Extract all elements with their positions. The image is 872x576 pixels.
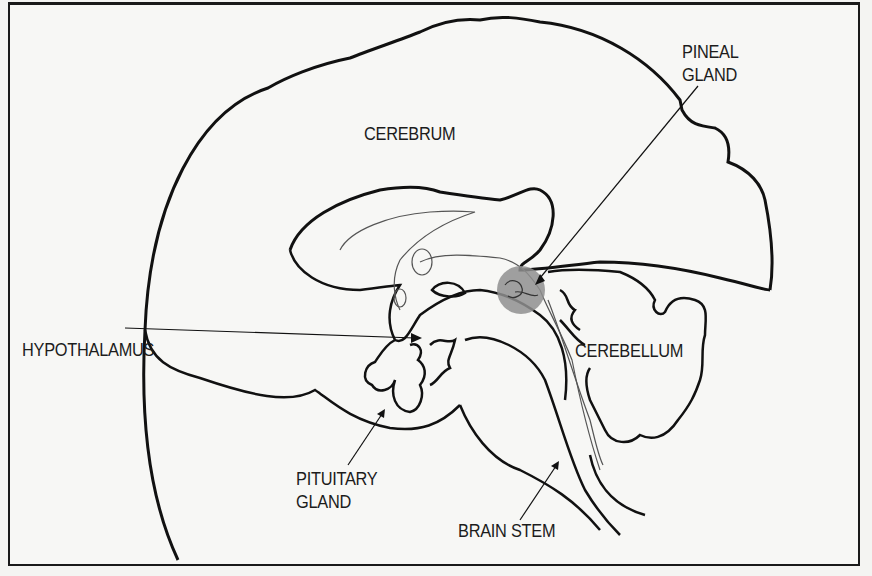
cerebrum-outline [144, 17, 772, 560]
cerebellum-folds [560, 290, 585, 345]
brain-stem-text: BRAIN STEM [458, 520, 555, 541]
label-pituitary-gland: PITUITARY GLAND [296, 467, 378, 513]
hypothalamus-text: HYPOTHALAMUS [22, 339, 154, 360]
pineal-text-line2: GLAND [682, 63, 739, 86]
hypothalamus-leader-line [125, 328, 415, 338]
label-cerebrum: CEREBRUM [364, 122, 455, 145]
pineal-text-line1: PINEAL [682, 40, 739, 63]
label-hypothalamus: HYPOTHALAMUS [22, 338, 154, 361]
hypothalamus-arrowhead [411, 333, 422, 343]
pineal-gland-shape [497, 266, 545, 314]
label-brain-stem: BRAIN STEM [458, 519, 555, 542]
midbrain-jag [430, 340, 455, 385]
pineal-leader-line [540, 86, 698, 278]
brain-stem-arrowhead [551, 461, 559, 470]
label-pineal-gland: PINEAL GLAND [682, 40, 739, 86]
brain-stem-pons [460, 405, 600, 530]
interthalamic-adhesion [432, 283, 465, 297]
brain-stem-front [465, 337, 620, 535]
thalamus-loop [412, 249, 432, 275]
pituitary-region [365, 340, 425, 412]
pituitary-text-line2: GLAND [296, 490, 378, 513]
pituitary-text-line1: PITUITARY [296, 467, 378, 490]
label-cerebellum: CEREBELLUM [575, 339, 683, 362]
pituitary-arrowhead [377, 409, 385, 418]
cerebellum-text: CEREBELLUM [575, 340, 683, 361]
cerebrum-text: CEREBRUM [364, 123, 455, 144]
brain-illustration [0, 0, 872, 576]
